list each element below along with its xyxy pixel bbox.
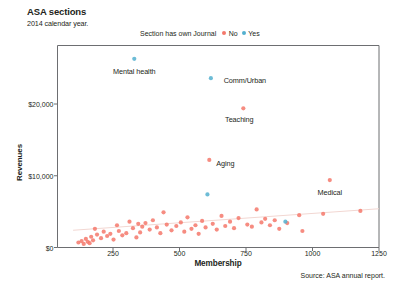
plot-frame — [58, 46, 380, 248]
chart-figure: ASA sections 2014 calendar year. Section… — [0, 0, 399, 287]
point-label: Mental health — [113, 67, 156, 76]
point-label: Comm/Urban — [224, 76, 266, 85]
point-label: Teaching — [225, 115, 253, 124]
point-label: Medical — [318, 188, 342, 197]
scatter-plot — [0, 0, 399, 287]
data-points — [76, 57, 362, 246]
point-label: Aging — [216, 159, 234, 168]
